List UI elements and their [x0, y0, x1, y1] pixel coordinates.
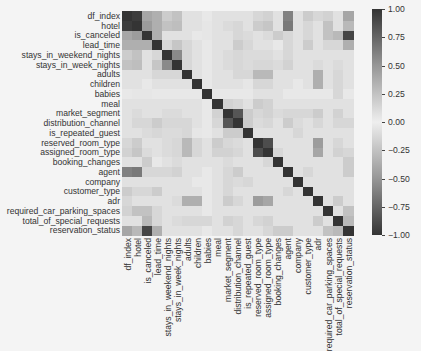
heatmap-cell	[182, 157, 193, 167]
heatmap-cell	[202, 148, 213, 158]
heatmap-cell	[142, 167, 153, 177]
heatmap-cell	[162, 40, 173, 50]
heatmap-cell	[313, 79, 324, 89]
heatmap-cell	[192, 89, 203, 99]
heatmap-cell	[243, 128, 254, 138]
heatmap-cell	[182, 109, 193, 119]
heatmap-cell	[152, 60, 163, 70]
heatmap-cell	[343, 31, 354, 41]
heatmap-cell	[122, 196, 133, 206]
x-axis-label: reserved_room_type	[253, 238, 263, 317]
y-axis-label: is_repeated_guest	[49, 128, 120, 138]
heatmap-cell	[142, 157, 153, 167]
heatmap-cell	[263, 50, 274, 60]
heatmap-cell	[243, 11, 254, 21]
heatmap-cell	[192, 118, 203, 128]
heatmap-cell	[182, 177, 193, 187]
heatmap-cell	[142, 89, 153, 99]
heatmap-cell	[283, 70, 294, 80]
heatmap-cell	[273, 99, 284, 109]
heatmap-cell	[323, 206, 334, 216]
heatmap-cell	[202, 11, 213, 21]
heatmap-cell	[182, 167, 193, 177]
heatmap-cell	[243, 109, 254, 119]
heatmap-cell	[233, 50, 244, 60]
heatmap-cell	[333, 31, 344, 41]
heatmap-cell	[303, 138, 314, 148]
heatmap-cell	[132, 196, 143, 206]
heatmap-cell	[223, 11, 234, 21]
heatmap-cell	[323, 226, 334, 236]
heatmap-cell	[283, 128, 294, 138]
heatmap-cell	[273, 138, 284, 148]
heatmap-cell	[122, 148, 133, 158]
heatmap-cell	[293, 206, 304, 216]
heatmap-cell	[152, 196, 163, 206]
heatmap-cell	[253, 99, 264, 109]
heatmap-cell	[313, 128, 324, 138]
heatmap-cell	[293, 50, 304, 60]
heatmap-cell	[202, 118, 213, 128]
heatmap-cell	[263, 206, 274, 216]
heatmap-cell	[182, 216, 193, 226]
colorbar-tick-label: 0.25	[388, 89, 405, 99]
heatmap-cell	[303, 109, 314, 119]
x-axis-label: meal	[213, 238, 223, 257]
heatmap-cell	[323, 216, 334, 226]
heatmap-cell	[283, 21, 294, 31]
heatmap-cell	[132, 99, 143, 109]
colorbar-tick	[382, 37, 385, 38]
heatmap-cell	[233, 216, 244, 226]
heatmap-cell	[333, 167, 344, 177]
heatmap-cell	[212, 157, 223, 167]
heatmap-cell	[132, 148, 143, 158]
heatmap-cell	[293, 31, 304, 41]
heatmap-cell	[132, 216, 143, 226]
heatmap-cell	[182, 79, 193, 89]
y-axis-label: df_index	[88, 11, 121, 21]
heatmap-cell	[192, 70, 203, 80]
heatmap-cell	[253, 40, 264, 50]
heatmap-cell	[233, 118, 244, 128]
heatmap-cell	[293, 99, 304, 109]
heatmap-cell	[233, 196, 244, 206]
heatmap-cell	[212, 167, 223, 177]
heatmap-cell	[343, 226, 354, 236]
heatmap-cell	[122, 89, 133, 99]
heatmap-cell	[303, 21, 314, 31]
heatmap-cell	[293, 138, 304, 148]
heatmap-cell	[122, 226, 133, 236]
heatmap-cell	[223, 177, 234, 187]
heatmap-cell	[162, 109, 173, 119]
heatmap-cell	[243, 70, 254, 80]
heatmap-cell	[152, 31, 163, 41]
heatmap-cell	[182, 50, 193, 60]
heatmap-cell	[223, 109, 234, 119]
x-axis-label: adults	[183, 238, 193, 261]
heatmap-cell	[172, 50, 183, 60]
heatmap-cell	[192, 128, 203, 138]
heatmap-cell	[122, 177, 133, 187]
heatmap-cell	[293, 21, 304, 31]
heatmap-cell	[293, 109, 304, 119]
heatmap-cell	[122, 118, 133, 128]
heatmap-cell	[323, 40, 334, 50]
heatmap-cell	[343, 79, 354, 89]
heatmap-cell	[122, 167, 133, 177]
heatmap-cell	[303, 89, 314, 99]
y-axis-label: booking_changes	[53, 157, 120, 167]
heatmap-cell	[202, 196, 213, 206]
heatmap-cell	[152, 11, 163, 21]
x-axis-label: total_of_special_requests	[334, 238, 344, 335]
heatmap-cell	[323, 109, 334, 119]
heatmap-cell	[283, 79, 294, 89]
heatmap-cell	[132, 89, 143, 99]
heatmap-cell	[273, 128, 284, 138]
y-axis-label: stays_in_weekend_nights	[22, 50, 120, 60]
heatmap-cell	[243, 138, 254, 148]
heatmap-cell	[243, 40, 254, 50]
heatmap-cell	[243, 148, 254, 158]
heatmap-cell	[293, 60, 304, 70]
y-axis-label: assigned_room_type	[40, 147, 120, 157]
y-axis-label: meal	[101, 99, 120, 109]
